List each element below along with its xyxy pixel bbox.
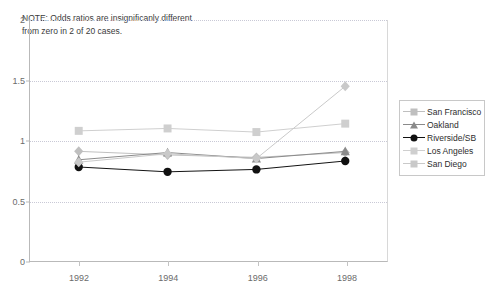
y-tick-label: 2 (20, 15, 25, 25)
x-tick-label: 1998 (337, 273, 357, 283)
legend-item-riverside-sb[interactable]: Riverside/SB (403, 131, 481, 144)
legend-item-label: Riverside/SB (425, 133, 476, 143)
legend-item-oakland[interactable]: Oakland (403, 118, 481, 131)
legend-marker-sample (403, 144, 425, 157)
series-oakland (74, 147, 350, 164)
x-tick-label: 1996 (248, 273, 268, 283)
y-tick-mark (26, 262, 30, 263)
diamond-marker-icon (411, 108, 418, 115)
series-los-angeles (75, 120, 349, 136)
y-tick-label: 0 (20, 257, 25, 267)
circle-marker (252, 165, 260, 173)
triangle-marker (341, 147, 350, 156)
legend-marker-sample (403, 131, 425, 144)
legend-item-label: Los Angeles (425, 146, 473, 156)
series-line (79, 161, 346, 172)
legend-item-los-angeles[interactable]: Los Angeles (403, 144, 481, 157)
x-tick-mark (168, 261, 169, 266)
legend-item-san-francisco[interactable]: San Francisco (403, 105, 481, 118)
triangle-marker-icon (410, 121, 418, 128)
series-line (79, 86, 346, 162)
x-tick-mark (258, 261, 259, 266)
circle-marker (163, 168, 171, 176)
circle-marker-icon (411, 134, 418, 141)
diamond-marker-icon (411, 160, 418, 167)
x-tick-mark (347, 261, 348, 266)
legend-marker-sample (403, 105, 425, 118)
series-line (79, 124, 346, 132)
x-tick-mark (79, 261, 80, 266)
plot-area: 00.511.52 1992199419961998 (29, 20, 388, 262)
y-tick-label: 1.5 (12, 76, 25, 86)
legend-marker-sample (403, 157, 425, 170)
diamond-marker (74, 146, 83, 156)
y-tick-label: 1 (20, 136, 25, 146)
legend-item-label: San Francisco (425, 107, 481, 117)
square-marker (252, 128, 260, 136)
legend-marker-sample (403, 118, 425, 131)
diamond-marker (341, 81, 350, 91)
x-tick-label: 1994 (158, 273, 178, 283)
square-marker (341, 120, 349, 128)
x-tick-label: 1992 (69, 273, 89, 283)
series-layer (30, 20, 387, 261)
square-marker (75, 127, 83, 135)
series-riverside-sb (75, 157, 350, 176)
circle-marker (341, 157, 349, 165)
square-marker (164, 124, 172, 132)
y-tick-label: 0.5 (12, 197, 25, 207)
legend-item-label: Oakland (425, 120, 459, 130)
diamond-marker (163, 149, 172, 159)
square-marker-icon (411, 147, 418, 154)
legend-item-san-diego[interactable]: San Diego (403, 157, 481, 170)
legend-item-label: San Diego (425, 159, 467, 169)
chart-figure: NOTE: Odds ratios are insignificanly dif… (0, 0, 493, 301)
chart-legend: San FranciscoOaklandRiverside/SBLos Ange… (399, 100, 485, 176)
